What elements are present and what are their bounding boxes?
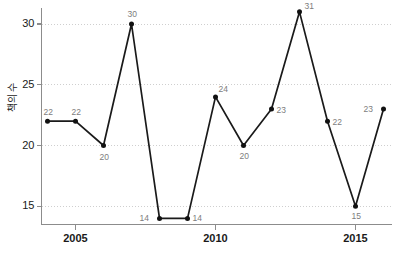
data-point-marker [45, 119, 50, 124]
series-polyline [48, 12, 384, 219]
series-markers [45, 9, 386, 221]
data-point-label: 20 [240, 151, 249, 161]
data-point-marker [325, 119, 330, 124]
data-point-marker [381, 107, 386, 112]
data-point-marker [157, 216, 162, 221]
tick-marks [37, 24, 356, 230]
data-point-label: 23 [277, 105, 286, 115]
data-point-label: 22 [72, 107, 81, 117]
data-point-marker [297, 9, 302, 14]
data-point-marker [213, 94, 218, 99]
line-chart: 책의 수 15202530 200520102015 2222203014142… [0, 0, 394, 254]
data-point-marker [241, 143, 246, 148]
data-point-marker [269, 107, 274, 112]
data-point-marker [185, 216, 190, 221]
data-point-label: 31 [305, 1, 314, 11]
data-point-label: 20 [100, 152, 109, 162]
data-point-marker [353, 204, 358, 209]
data-point-label: 23 [364, 104, 373, 114]
data-point-label: 30 [128, 9, 137, 19]
data-point-label: 24 [219, 84, 228, 94]
series-line [48, 12, 384, 219]
data-point-label: 22 [44, 107, 53, 117]
data-point-label: 22 [333, 117, 342, 127]
data-point-label: 14 [193, 213, 202, 223]
gridlines [42, 24, 393, 206]
data-point-marker [73, 119, 78, 124]
data-point-marker [129, 22, 134, 27]
data-point-label: 14 [140, 213, 149, 223]
data-point-marker [101, 143, 106, 148]
data-point-label: 15 [352, 211, 361, 221]
